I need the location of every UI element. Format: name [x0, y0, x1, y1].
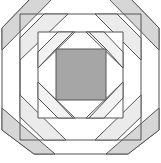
center-square: [56, 49, 106, 100]
quilt-block-diagram: [0, 0, 161, 163]
